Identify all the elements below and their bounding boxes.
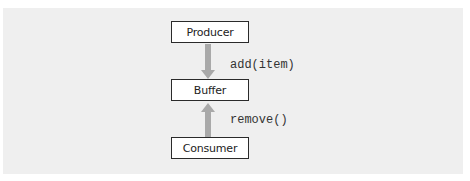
consumer-node: Consumer [171, 137, 249, 159]
consumer-label: Consumer [183, 142, 238, 155]
add-arrow-shaft [205, 44, 211, 71]
remove-label: remove() [230, 113, 288, 127]
buffer-label: Buffer [194, 84, 226, 97]
producer-node: Producer [171, 21, 249, 43]
producer-label: Producer [186, 26, 233, 39]
buffer-node: Buffer [171, 79, 249, 101]
arrow-down-icon [201, 70, 215, 79]
add-item-label: add(item) [230, 58, 295, 72]
remove-arrow-shaft [205, 111, 211, 137]
